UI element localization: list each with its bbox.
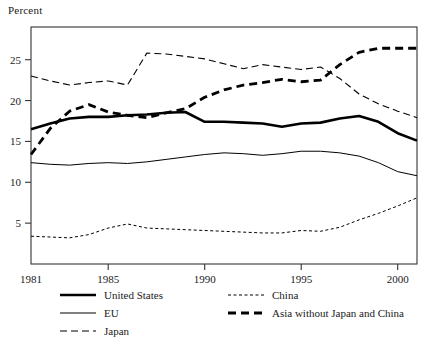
x-tick-label: 1985 (97, 273, 120, 285)
series-line-united-states (31, 112, 417, 141)
legend-label-china: China (272, 289, 298, 301)
y-tick-label: 15 (10, 135, 22, 147)
x-axis-ticks: 19811985199019952000 (20, 264, 409, 285)
y-tick-label: 20 (10, 95, 22, 107)
chart-figure: Percent 510152025 19811985199019952000 U… (0, 0, 429, 352)
legend-item-asia-without-japan-and-china: Asia without Japan and China (228, 307, 404, 319)
series-lines (31, 48, 417, 238)
series-line-japan (31, 53, 417, 118)
x-tick-label: 1995 (290, 273, 313, 285)
legend-label-eu: EU (104, 307, 119, 319)
x-tick-label: 2000 (387, 273, 410, 285)
y-axis-ticks: 510152025 (10, 54, 31, 229)
legend-item-china: China (228, 289, 298, 301)
legend-item-united-states: United States (60, 289, 163, 301)
y-tick-label: 5 (16, 217, 22, 229)
legend-label-asia-without-japan-and-china: Asia without Japan and China (272, 307, 404, 319)
legend-item-japan: Japan (60, 325, 130, 337)
plot-frame (31, 27, 417, 264)
y-tick-label: 10 (10, 176, 22, 188)
series-line-eu (31, 151, 417, 176)
legend-item-eu: EU (60, 307, 119, 319)
legend-label-united-states: United States (104, 289, 163, 301)
series-line-china (31, 198, 417, 238)
legend-label-japan: Japan (104, 325, 130, 337)
y-tick-label: 25 (10, 54, 22, 66)
chart-legend: United StatesEUJapanChinaAsia without Ja… (60, 289, 404, 337)
line-chart-plot: 510152025 19811985199019952000 United St… (0, 0, 429, 352)
x-tick-label: 1990 (194, 273, 217, 285)
x-tick-label: 1981 (20, 273, 42, 285)
